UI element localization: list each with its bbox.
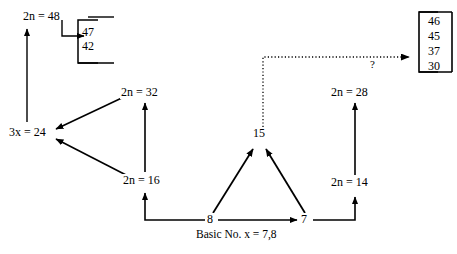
node-right-upper-text: 2n = 28 <box>331 85 368 99</box>
bracket-left-value: 42 <box>82 39 94 53</box>
edge-seven-to-right-lower <box>313 197 355 220</box>
node-center-mid-text: 15 <box>253 126 265 140</box>
bracket-right-value: 45 <box>428 29 440 44</box>
node-right-upper: 2n = 28 <box>330 86 369 99</box>
node-basic-eight-text: 8 <box>207 212 213 226</box>
node-left-upper: 2n = 32 <box>120 86 159 99</box>
node-top-left-result: 2n = 48 <box>22 10 61 23</box>
diagram-connectors <box>0 0 457 254</box>
node-top-left-result-text: 2n = 48 <box>23 9 60 23</box>
node-basic-seven: 7 <box>300 213 308 226</box>
bracket-right-values: 46 45 37 30 <box>428 14 440 74</box>
node-basic-seven-text: 7 <box>301 212 307 226</box>
edge-upper-to-sum <box>56 96 126 129</box>
node-right-lower: 2n = 14 <box>330 176 369 189</box>
edge-lower-to-sum <box>56 139 128 176</box>
node-left-sum-text: 3x = 24 <box>9 125 46 139</box>
bracket-left-value: 47 <box>82 25 94 39</box>
bracket-right-value: 30 <box>428 59 440 74</box>
edge-seven-to-mid <box>266 149 305 213</box>
unknown-marker-label: ? <box>370 58 375 70</box>
node-left-lower-text: 2n = 16 <box>123 173 160 187</box>
bracket-right-value: 37 <box>428 44 440 59</box>
diagram-caption-text: Basic No. x = 7,8 <box>196 228 277 240</box>
node-basic-eight: 8 <box>206 213 214 226</box>
unknown-marker-text: ? <box>370 58 375 70</box>
edge-eight-to-mid <box>213 149 253 213</box>
bracket-right-value: 46 <box>428 14 440 29</box>
node-left-upper-text: 2n = 32 <box>121 85 158 99</box>
node-center-mid: 15 <box>252 127 266 140</box>
node-left-sum: 3x = 24 <box>8 126 47 139</box>
node-right-lower-text: 2n = 14 <box>331 175 368 189</box>
diagram-canvas: 2n = 48 3x = 24 2n = 32 2n = 16 15 8 7 2… <box>0 0 457 254</box>
diagram-caption: Basic No. x = 7,8 <box>196 228 277 240</box>
edge-top-left-to-bracket <box>62 20 84 36</box>
node-left-lower: 2n = 16 <box>122 174 161 187</box>
edge-eight-to-lower <box>145 193 205 220</box>
bracket-left-values: 47 42 <box>82 25 94 53</box>
